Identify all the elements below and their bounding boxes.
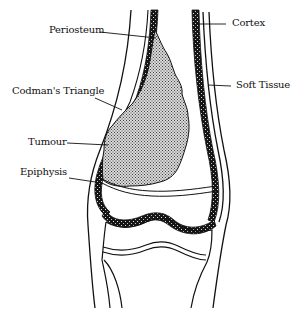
knee-tumour-diagram: Periosteum Codman's Triangle Tumour Epip… bbox=[0, 0, 295, 314]
diagram-canvas bbox=[0, 0, 295, 314]
label-cortex: Cortex bbox=[232, 17, 265, 29]
label-epiphysis: Epiphysis bbox=[20, 166, 67, 178]
label-tumour: Tumour bbox=[28, 136, 67, 148]
label-codmans-triangle: Codman's Triangle bbox=[12, 85, 104, 97]
condyle-cortex bbox=[102, 210, 216, 234]
right-cortex bbox=[192, 10, 219, 222]
label-periosteum: Periosteum bbox=[49, 24, 104, 36]
label-soft-tissue: Soft Tissue bbox=[236, 79, 290, 91]
tumour-mass bbox=[102, 30, 189, 186]
